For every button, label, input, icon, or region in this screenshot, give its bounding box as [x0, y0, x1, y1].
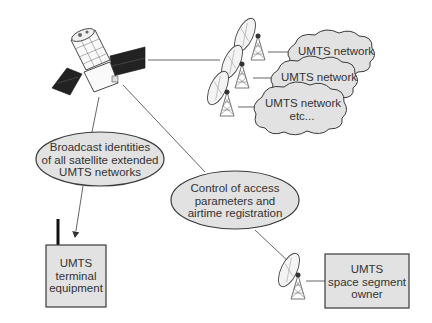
cloud-label-1: UMTS network	[298, 45, 368, 58]
cloud-label-3: UMTS network etc...	[265, 97, 339, 122]
broadcast-label: Broadcast identities of all satellite ex…	[36, 141, 164, 179]
satellite-icon	[52, 26, 145, 95]
ground-station-group	[203, 15, 265, 116]
owner-label: UMTS space segment owner	[325, 263, 409, 301]
cloud-label-2: UMTS network	[281, 71, 351, 84]
control-label: Control of access parameters and airtime…	[171, 182, 299, 220]
terminal-label: UMTS terminal equipment	[46, 257, 106, 295]
owner-ground-station-icon	[274, 250, 305, 299]
